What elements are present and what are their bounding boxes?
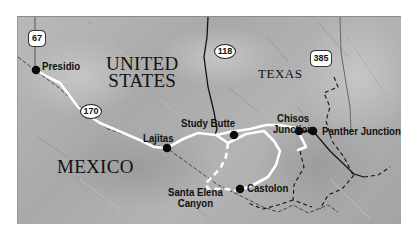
label-united-states: UNITED STATES [106, 55, 179, 89]
shield-us-67: 67 [29, 31, 45, 46]
label-texas: TEXAS [258, 66, 302, 82]
label-states: STATES [106, 72, 179, 89]
shield-fm-170: 170 [80, 104, 102, 119]
label-lajitas: Lajitas [143, 133, 174, 144]
road-park-main [313, 131, 364, 177]
label-panther-junction: Panther Junction [322, 126, 401, 137]
label-castolon: Castolon [247, 183, 288, 194]
label-santa-elena-canyon: Santa Elena Canyon [168, 187, 223, 209]
dashed-route [206, 143, 240, 191]
label-mexico: MEXICO [57, 158, 134, 175]
label-junction: Junction [273, 124, 313, 135]
map-panel: UNITED STATES TEXAS MEXICO 67 170 118 38… [17, 16, 401, 224]
label-canyon: Canyon [168, 198, 223, 209]
label-chisos-junction: Chisos Junction [273, 113, 313, 135]
label-presidio: Presidio [42, 61, 80, 72]
road-us-385 [340, 17, 351, 132]
shield-us-385: 385 [311, 51, 331, 66]
label-study-butte: Study Butte [181, 118, 235, 129]
shield-tx-118: 118 [214, 44, 236, 59]
